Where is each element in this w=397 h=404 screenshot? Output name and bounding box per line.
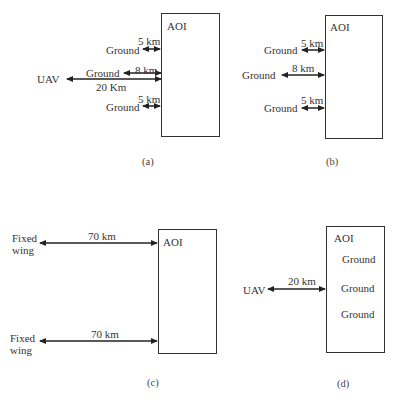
inside-ground-2: Ground (341, 282, 375, 294)
node-label-b-2: Ground (242, 69, 276, 81)
node-label-c-1-line2: wing (12, 244, 34, 256)
aoi-label-a: AOI (167, 20, 187, 32)
caption-a: (a) (142, 156, 154, 167)
aoi-label-c: AOI (163, 236, 183, 248)
distance-label-b-1: 5 km (301, 37, 323, 49)
node-label-c-2-line2: wing (10, 344, 32, 356)
aoi-label-d: AOI (334, 232, 354, 244)
distance-label-a-uav: 20 Km (96, 81, 126, 93)
distance-label-c-2: 70 km (91, 328, 119, 340)
distance-label-b-2: 8 km (292, 62, 314, 74)
node-label-b-1: Ground (264, 44, 298, 56)
distance-label-a-2: 8 km (135, 64, 157, 76)
distance-label-a-4: 5 km (138, 93, 160, 105)
node-label-c-1-line1: Fixed (12, 232, 37, 244)
inside-ground-3: Ground (341, 308, 375, 320)
distance-label-a-1: 5 km (138, 35, 160, 47)
node-label-b-3: Ground (264, 102, 298, 114)
caption-c: (c) (147, 377, 159, 388)
caption-b: (b) (326, 156, 338, 167)
node-label-a-uav: UAV (37, 73, 59, 85)
node-label-a-1: Ground (106, 44, 140, 56)
inside-ground-1: Ground (342, 253, 376, 265)
aoi-box-b (325, 15, 383, 139)
node-label-a-4: Ground (106, 101, 140, 113)
node-label-c-2-line1: Fixed (10, 332, 35, 344)
caption-d: (d) (337, 378, 349, 389)
distance-label-d-1: 20 km (288, 275, 316, 287)
node-label-a-2: Ground (86, 67, 120, 79)
distance-label-c-1: 70 km (88, 230, 116, 242)
distance-label-b-3: 5 km (301, 94, 323, 106)
aoi-label-b: AOI (330, 21, 350, 33)
node-label-d-uav: UAV (243, 284, 265, 296)
